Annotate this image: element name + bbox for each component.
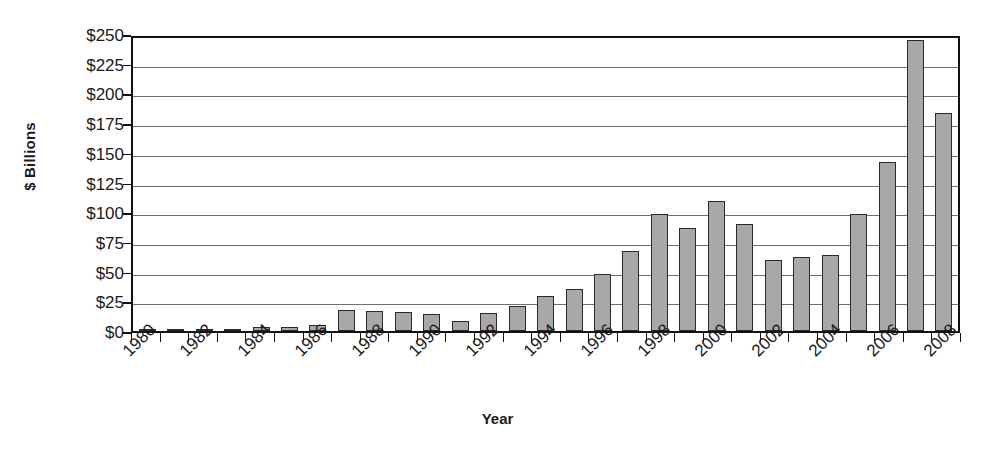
y-tick-mark: [123, 184, 131, 186]
x-axis-title: Year: [0, 410, 995, 427]
x-tick-label: 1988: [348, 320, 389, 361]
x-tick-label: 2004: [805, 320, 846, 361]
y-tick-mark: [123, 332, 131, 334]
x-tick-label: 1984: [234, 320, 275, 361]
x-tick-label: 1990: [405, 320, 446, 361]
y-tick-mark: [123, 213, 131, 215]
x-axis-tick-labels: 1980198219841986198819901992199419961998…: [0, 0, 995, 452]
x-tick-label: 1998: [634, 320, 675, 361]
x-tick-label: 2000: [691, 320, 732, 361]
x-tick-label: 1982: [176, 320, 217, 361]
y-tick-mark: [123, 302, 131, 304]
x-tick-label: 2002: [748, 320, 789, 361]
x-tick-label: 2008: [920, 320, 961, 361]
y-tick-mark: [123, 94, 131, 96]
x-tick-label: 1996: [577, 320, 618, 361]
x-tick-label: 1992: [462, 320, 503, 361]
y-tick-mark: [123, 273, 131, 275]
y-tick-mark: [123, 243, 131, 245]
bar-chart: $ Billions $0$25$50$75$100$125$150$175$2…: [0, 0, 995, 452]
y-tick-mark: [123, 65, 131, 67]
x-tick-label: 1986: [291, 320, 332, 361]
x-tick-label: 2006: [863, 320, 904, 361]
y-tick-mark: [123, 154, 131, 156]
y-tick-mark: [123, 35, 131, 37]
x-tick-label: 1994: [520, 320, 561, 361]
x-tick-label: 1980: [119, 320, 160, 361]
y-tick-mark: [123, 124, 131, 126]
